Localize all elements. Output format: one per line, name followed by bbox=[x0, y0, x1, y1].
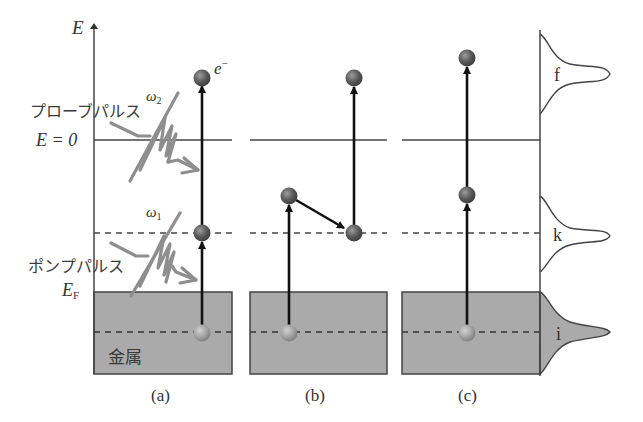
fermi-level-label: EF bbox=[62, 281, 79, 301]
fermi-level-main: E bbox=[62, 280, 73, 300]
probe-pulse-label: プローブパルス bbox=[30, 104, 141, 120]
omega2-subscript: 2 bbox=[157, 95, 162, 106]
metal-label: 金属 bbox=[108, 349, 142, 366]
spectrum-peak-k-label: k bbox=[553, 226, 562, 244]
omega1-symbol: ω bbox=[146, 204, 157, 220]
pump-pulse-icon bbox=[111, 213, 196, 296]
electron-c-initial bbox=[459, 325, 476, 342]
electron-b-excited bbox=[281, 188, 298, 205]
electron-charge: − bbox=[222, 57, 228, 69]
peak-k bbox=[540, 196, 610, 272]
transitions-panel-b bbox=[289, 87, 354, 326]
photoemission-diagram: E E = 0 EF e− ω2 ω1 プローブパルス ポンプパルス 金属 (a… bbox=[0, 0, 643, 422]
electron-b-intermediate bbox=[346, 225, 363, 242]
omega2-symbol: ω bbox=[146, 88, 157, 104]
electron-c-final bbox=[459, 50, 476, 67]
diagram-canvas bbox=[0, 0, 643, 422]
energy-axis-label: E bbox=[72, 18, 84, 37]
omega2-label: ω2 bbox=[146, 89, 162, 106]
spectrum-peak-f-label: f bbox=[554, 66, 560, 84]
vacuum-level-label: E = 0 bbox=[36, 131, 77, 149]
omega1-subscript: 1 bbox=[157, 211, 162, 222]
panel-a-caption: (a) bbox=[151, 387, 170, 404]
peak-i bbox=[540, 292, 610, 374]
electron-b-initial bbox=[281, 325, 298, 342]
electron-c-intermediate bbox=[459, 187, 476, 204]
fermi-level-sub: F bbox=[73, 289, 79, 301]
peak-f bbox=[540, 34, 610, 114]
panel-c-caption: (c) bbox=[458, 387, 477, 404]
electron-symbol: e bbox=[214, 59, 222, 78]
spectrum bbox=[540, 30, 610, 376]
electron-label: e− bbox=[214, 58, 228, 77]
electron-a-initial bbox=[194, 325, 211, 342]
spectrum-peak-i-label: i bbox=[556, 325, 561, 343]
electron-a-intermediate bbox=[194, 225, 211, 242]
pump-pulse-label: ポンプパルス bbox=[28, 259, 124, 275]
omega1-label: ω1 bbox=[146, 205, 162, 222]
panel-b-caption: (b) bbox=[305, 387, 325, 404]
electron-a-final bbox=[194, 70, 211, 87]
electron-b-final bbox=[346, 70, 363, 87]
